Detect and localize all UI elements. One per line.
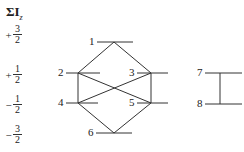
level-6-label: 6 (88, 127, 94, 138)
level-7-label: 7 (197, 67, 203, 78)
level-4-label: 4 (58, 97, 64, 108)
level-1-label: 1 (89, 36, 95, 47)
level-2-label: 2 (58, 67, 64, 78)
level-8-label: 8 (197, 98, 203, 109)
level-3-label: 3 (129, 67, 135, 78)
level-diagram (0, 0, 244, 152)
transition-4-6 (78, 103, 114, 133)
level-5-label: 5 (129, 97, 135, 108)
transition-1-2 (78, 42, 114, 73)
